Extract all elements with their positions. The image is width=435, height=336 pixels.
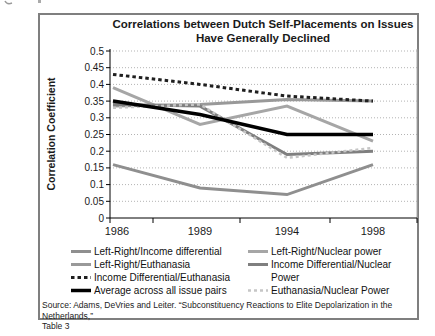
legend-marker bbox=[70, 284, 94, 297]
series-line-0 bbox=[113, 165, 373, 195]
x-category-label: 1986 bbox=[92, 225, 142, 237]
x-category-label: 1989 bbox=[175, 225, 225, 237]
chart-title: Correlations between Dutch Self-Placemen… bbox=[108, 18, 418, 45]
y-tick-label: 0.35 bbox=[58, 96, 104, 107]
legend-label: Average across all issue pairs bbox=[94, 284, 259, 297]
page: Correlations between Dutch Self-Placemen… bbox=[0, 0, 435, 336]
y-tick-label: 0.3 bbox=[58, 112, 104, 123]
legend-marker bbox=[70, 258, 94, 271]
legend-label: Left-Right/Euthanasia bbox=[94, 258, 259, 271]
legend-item: Income Differential/Euthanasia bbox=[70, 271, 259, 284]
y-tick-label: 0.25 bbox=[58, 129, 104, 140]
y-axis-title: Correlation Coefficient bbox=[45, 77, 57, 190]
legend-marker bbox=[70, 271, 94, 284]
legend-label: Income Differential/Euthanasia bbox=[94, 271, 259, 284]
legend-item: Left-Right/Nuclear power bbox=[247, 245, 416, 258]
y-tick-label: 0.2 bbox=[58, 146, 104, 157]
source-note: Source: Adams, DeVries and Leiter. “Subc… bbox=[42, 300, 416, 332]
source-note-line1: Source: Adams, DeVries and Leiter. “Subc… bbox=[42, 300, 416, 321]
legend-item: Average across all issue pairs bbox=[70, 284, 259, 297]
legend-column-left: Left-Right/Income differentialLeft-Right… bbox=[70, 245, 259, 297]
series-line-4 bbox=[113, 74, 373, 101]
legend-item: Left-Right/Euthanasia bbox=[70, 258, 259, 271]
x-category-label: 1998 bbox=[348, 225, 398, 237]
y-tick-label: 0.45 bbox=[58, 62, 104, 73]
y-tick-label: 0.1 bbox=[58, 179, 104, 190]
source-note-line2: Table 3 bbox=[42, 321, 416, 332]
legend-label: Left-Right/Income differential bbox=[94, 245, 259, 258]
y-tick-label: 0.05 bbox=[58, 196, 104, 207]
y-tick-label: 0 bbox=[58, 213, 104, 224]
legend-marker bbox=[247, 245, 271, 258]
legend-item: Euthanasia/Nuclear Power bbox=[247, 284, 416, 297]
legend-label: Euthanasia/Nuclear Power bbox=[271, 284, 416, 297]
legend-marker bbox=[70, 245, 94, 258]
y-tick-label: 0.5 bbox=[58, 46, 104, 57]
x-category-label: 1994 bbox=[262, 225, 312, 237]
series-line-3 bbox=[113, 104, 373, 154]
legend-marker bbox=[247, 258, 271, 271]
y-tick-label: 0.15 bbox=[58, 162, 104, 173]
y-tick-label: 0.4 bbox=[58, 79, 104, 90]
legend-label: Left-Right/Nuclear power bbox=[271, 245, 416, 258]
legend-marker bbox=[247, 284, 271, 297]
legend-column-right: Left-Right/Nuclear powerIncome Different… bbox=[247, 245, 416, 297]
legend-label: Income Differential/Nuclear Power bbox=[271, 258, 416, 284]
legend-item: Income Differential/Nuclear Power bbox=[247, 258, 416, 284]
legend-item: Left-Right/Income differential bbox=[70, 245, 259, 258]
